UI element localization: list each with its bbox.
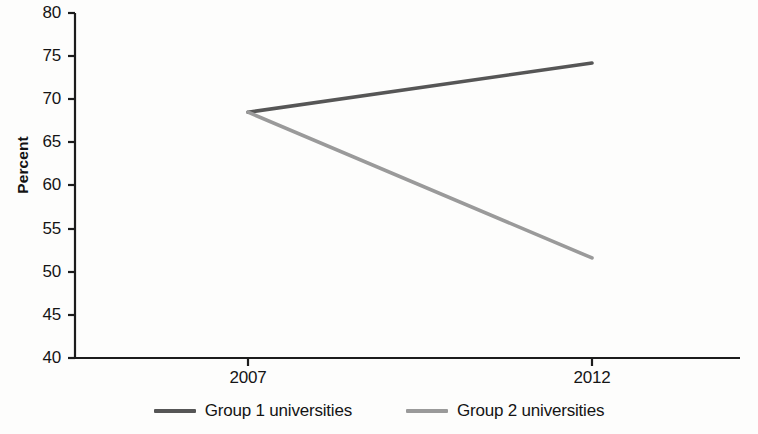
legend-label-group-2: Group 2 universities: [457, 401, 604, 421]
x-axis-ticks: [248, 358, 592, 366]
legend-entry-group-1: Group 1 universities: [154, 401, 352, 421]
legend-swatch-group-2: [406, 409, 448, 413]
legend-label-group-1: Group 1 universities: [205, 401, 352, 421]
series-line-group-2: [248, 112, 592, 258]
plot-area: [0, 0, 758, 434]
legend-swatch-group-1: [154, 409, 196, 413]
series-line-group-1: [248, 63, 592, 112]
line-chart-figure: Percent 80 75 70 65 60 55 50 45 40 2007 …: [0, 0, 758, 434]
chart-legend: Group 1 universities Group 2 universitie…: [0, 401, 758, 421]
legend-entry-group-2: Group 2 universities: [406, 401, 604, 421]
